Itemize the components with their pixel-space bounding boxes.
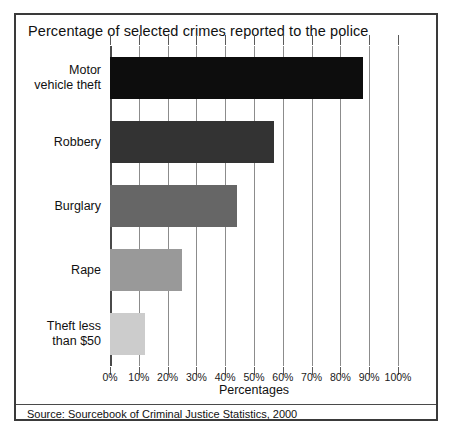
bar-row: Rape	[110, 238, 398, 302]
category-label: Motorvehicle theft	[0, 57, 101, 99]
category-label: Rape	[0, 249, 101, 291]
tick-top-100%	[398, 35, 399, 45]
bar-row: Motorvehicle theft	[110, 46, 398, 110]
x-tick-label: 70%	[301, 371, 322, 383]
x-tick-label: 80%	[330, 371, 351, 383]
category-label-line: Rape	[71, 263, 101, 278]
x-tick-label: 10%	[128, 371, 149, 383]
x-tick-label: 20%	[157, 371, 178, 383]
tick-top-30%	[196, 35, 197, 45]
plot-area: 0%10%20%30%40%50%60%70%80%90%100%Motorve…	[110, 46, 398, 366]
tick-top-70%	[312, 35, 313, 45]
category-label-line: vehicle theft	[34, 78, 101, 93]
bar-row: Robbery	[110, 110, 398, 174]
category-label-line: Theft less	[47, 319, 101, 334]
tick-top-80%	[340, 35, 341, 45]
bar	[110, 249, 182, 291]
category-label: Robbery	[0, 121, 101, 163]
tick-top-60%	[283, 35, 284, 45]
gridline-100%	[398, 46, 399, 366]
x-tick-label: 30%	[186, 371, 207, 383]
x-tick-label: 100%	[385, 371, 412, 383]
bar	[110, 185, 237, 227]
tick-top-20%	[168, 35, 169, 45]
category-label: Burglary	[0, 185, 101, 227]
bar-row: Burglary	[110, 174, 398, 238]
category-label-line: Motor	[69, 63, 101, 78]
x-tick-label: 50%	[243, 371, 264, 383]
bar	[110, 57, 363, 99]
chart-title: Percentage of selected crimes reported t…	[28, 23, 369, 39]
bar-row: Theft lessthan $50	[110, 302, 398, 366]
x-tick-label: 0%	[102, 371, 117, 383]
footer-divider	[16, 404, 436, 405]
category-label: Theft lessthan $50	[0, 313, 101, 355]
category-label-line: Robbery	[54, 135, 101, 150]
tick-top-90%	[369, 35, 370, 45]
tick-top-10%	[139, 35, 140, 45]
x-tick-label: 40%	[215, 371, 236, 383]
tick-top-40%	[225, 35, 226, 45]
x-tick-label: 60%	[272, 371, 293, 383]
bar	[110, 313, 145, 355]
category-label-line: Burglary	[54, 199, 101, 214]
tick-top-50%	[254, 35, 255, 45]
x-tick-label: 90%	[359, 371, 380, 383]
source-note: Source: Sourcebook of Criminal Justice S…	[27, 408, 297, 420]
category-label-line: than $50	[52, 334, 101, 349]
chart-figure: Percentage of selected crimes reported t…	[14, 13, 438, 421]
tick-top-0%	[110, 35, 111, 45]
x-axis-label: Percentages	[110, 383, 398, 397]
bar	[110, 121, 274, 163]
